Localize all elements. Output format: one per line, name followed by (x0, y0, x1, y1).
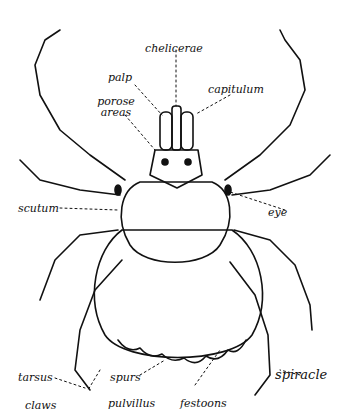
label-palp: palp (108, 72, 132, 83)
label-spurs: spurs (110, 372, 141, 383)
label-eye: eye (268, 207, 287, 218)
body-outline (94, 230, 262, 358)
label-festoons: festoons (180, 398, 227, 409)
label-scutum: scutum (18, 203, 59, 214)
label-claws: claws (25, 400, 56, 411)
label-spiracle: spiracle (275, 368, 327, 381)
label-porose-areas: porose areas (86, 96, 146, 118)
festoons (118, 340, 246, 363)
label-tarsus: tarsus (18, 372, 53, 383)
label-chelicerae: chelicerae (145, 43, 203, 54)
label-pulvillus: pulvillus (108, 398, 155, 409)
tick-diagram: chelicerae palp capitulum porose areas s… (0, 0, 352, 419)
scutum (121, 182, 230, 262)
label-capitulum: capitulum (208, 84, 264, 95)
